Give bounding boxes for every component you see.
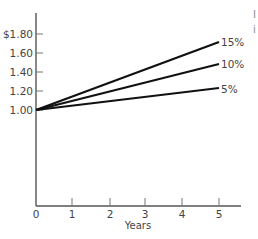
x-tick-label: 0	[33, 208, 40, 220]
y-tick-label: 1.00	[10, 104, 33, 116]
series-label-15: 15%	[221, 36, 244, 48]
y-tick-label: $1.80	[3, 28, 33, 40]
y-tick-label: 1.20	[10, 85, 33, 97]
y-ticks	[36, 34, 43, 110]
x-tick-label: 3	[142, 208, 149, 220]
x-ticks	[72, 198, 219, 206]
x-tick-label: 2	[107, 208, 114, 220]
series-label-10: 10%	[221, 58, 244, 70]
series-label-5: 5%	[221, 83, 238, 95]
y-tick-label: 1.40	[10, 66, 33, 78]
x-tick-label: 1	[69, 208, 76, 220]
series-line-10	[36, 64, 219, 110]
x-tick-label: 5	[216, 208, 223, 220]
margin-text: i	[253, 24, 256, 35]
chart: $1.80 1.60 1.40 1.20 1.00 0 1 2 3 4 5 Ye…	[0, 0, 258, 239]
x-axis-title: Years	[124, 220, 151, 231]
margin-text: I	[253, 9, 256, 20]
y-tick-label: 1.60	[10, 47, 33, 59]
x-tick-label: 4	[179, 208, 186, 220]
